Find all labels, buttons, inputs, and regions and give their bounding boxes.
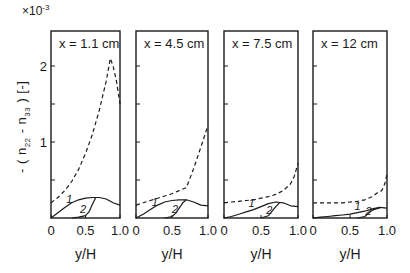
x-tick-label: 0.5 <box>163 223 181 238</box>
x-tick-label: 0.5 <box>252 223 270 238</box>
panel-title: x = 4.5 cm <box>144 36 204 51</box>
y-tick-label: 2 <box>40 59 47 74</box>
y-tick-label: 1 <box>40 135 47 150</box>
curve-label-2: 2 <box>171 203 178 215</box>
curve-label-1: 1 <box>152 196 158 208</box>
panel-title: x = 7.5 cm <box>232 36 292 51</box>
x-axis-label: y/H <box>162 246 183 262</box>
chart-canvas: 1200.51.0y/Hx = 1.1 cm1200.51.0y/Hx = 4.… <box>0 0 410 273</box>
x-axis-label: y/H <box>75 246 96 262</box>
dashed-curve <box>224 163 298 203</box>
x-tick-label: 1.0 <box>199 223 217 238</box>
curve-label-2: 2 <box>79 203 86 215</box>
x-tick-label: 0 <box>132 223 139 238</box>
x-tick-label: 0.5 <box>76 223 94 238</box>
x-tick-label: 0 <box>220 223 227 238</box>
panel-frame <box>224 31 298 218</box>
dashed-curve <box>136 125 208 205</box>
x-tick-label: 1.0 <box>111 223 129 238</box>
curve-label-1: 1 <box>354 200 360 212</box>
panel-frame <box>51 31 120 218</box>
panel-frame <box>313 31 387 218</box>
curve-label-1: 1 <box>248 197 254 209</box>
panel-frame <box>136 31 208 218</box>
x-tick-label: 1.0 <box>289 223 307 238</box>
curve-label-1: 1 <box>66 193 72 205</box>
dashed-curve <box>313 174 387 203</box>
x-tick-label: 0 <box>47 223 54 238</box>
x-tick-label: 0.5 <box>341 223 359 238</box>
x-tick-label: 0 <box>309 223 316 238</box>
curve-label-2: 2 <box>265 204 272 216</box>
x-axis-label: y/H <box>340 246 361 262</box>
x-tick-label: 1.0 <box>378 223 396 238</box>
panel-title: x = 1.1 cm <box>59 36 119 51</box>
x-axis-label: y/H <box>251 246 272 262</box>
panel-title: x = 12 cm <box>321 36 378 51</box>
dashed-curve <box>51 58 120 202</box>
curve-label-2: 2 <box>365 205 372 217</box>
